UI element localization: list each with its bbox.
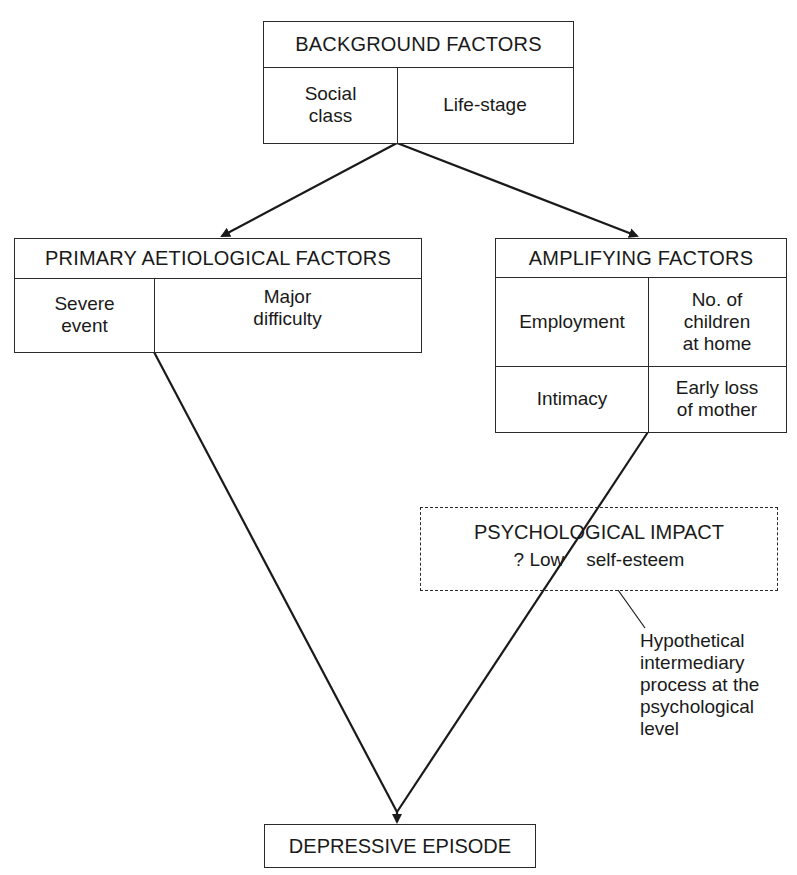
factor-early-loss-of-mother: Early loss of mother: [649, 367, 785, 431]
line-primary-to-outcome: [154, 352, 397, 812]
annotation-leader-line: [618, 590, 645, 628]
hypothetical-process-annotation: Hypothetical intermediary process at the…: [640, 630, 797, 740]
arrow-background-to-amplifying: [397, 143, 637, 236]
outcome-title: DEPRESSIVE EPISODE: [265, 825, 535, 867]
factor-severe-event: Severe event: [15, 278, 154, 352]
factor-social-class: Social class: [264, 67, 397, 143]
factor-life-stage: Life-stage: [398, 67, 572, 143]
amplifying-factors-title: AMPLIFYING FACTORS: [496, 239, 786, 278]
background-factors-box: BACKGROUND FACTORS Social class Life-sta…: [263, 21, 574, 144]
subtitle-suffix: self-esteem: [586, 549, 684, 571]
factor-employment: Employment: [496, 277, 648, 366]
background-factors-title: BACKGROUND FACTORS: [264, 22, 573, 68]
line-amplifying-to-outcome: [397, 432, 648, 812]
psychological-impact-box: PSYCHOLOGICAL IMPACT ? Low self-esteem: [420, 507, 778, 591]
psychological-impact-subtitle: ? Low self-esteem: [421, 546, 777, 574]
factor-major-difficulty: Major difficulty: [155, 278, 420, 338]
primary-factors-box: PRIMARY AETIOLOGICAL FACTORS Severe even…: [14, 238, 422, 353]
primary-factors-title: PRIMARY AETIOLOGICAL FACTORS: [15, 239, 421, 279]
factor-intimacy: Intimacy: [496, 367, 648, 431]
factor-children-at-home: No. of children at home: [649, 277, 785, 366]
depressive-episode-box: DEPRESSIVE EPISODE: [264, 824, 536, 868]
subtitle-prefix: ? Low: [514, 549, 565, 571]
arrow-background-to-primary: [222, 143, 397, 236]
psychological-impact-title: PSYCHOLOGICAL IMPACT: [421, 518, 777, 546]
amplifying-factors-box: AMPLIFYING FACTORS Employment No. of chi…: [495, 238, 787, 433]
